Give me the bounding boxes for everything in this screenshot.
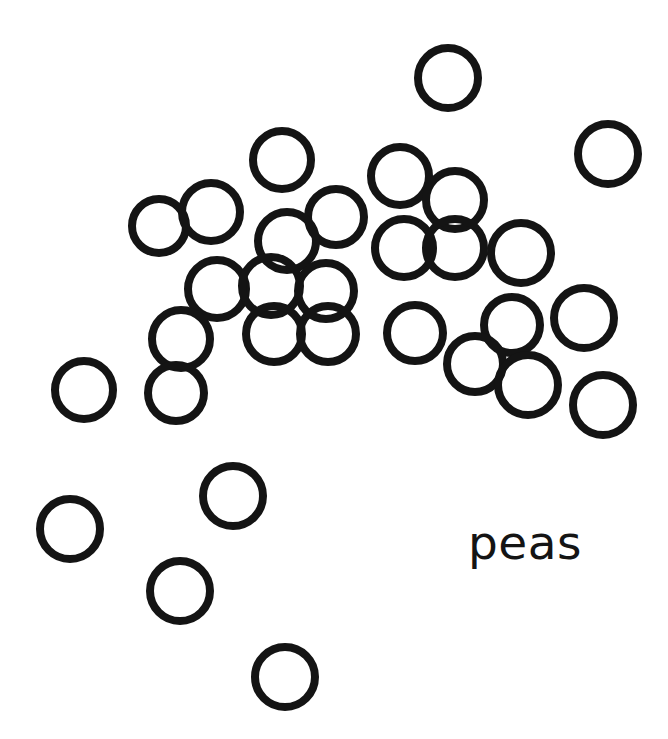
- pea-circle: [40, 499, 100, 559]
- pea-circle: [573, 375, 633, 435]
- pea-circle: [182, 183, 240, 241]
- peas-illustration: peas: [0, 0, 668, 739]
- pea-circle: [498, 355, 558, 415]
- pea-circle: [253, 131, 311, 189]
- pea-circle: [203, 466, 263, 526]
- pea-circle: [491, 223, 551, 283]
- pea-circle: [387, 305, 443, 361]
- pea-circle: [418, 48, 478, 108]
- pea-circle: [255, 647, 315, 707]
- pea-circle: [132, 199, 186, 253]
- pea-circle: [55, 361, 113, 419]
- pea-circle-group: [40, 48, 638, 707]
- pea-circle: [554, 288, 614, 348]
- pea-circle: [150, 561, 210, 621]
- peas-scatter-canvas: [0, 0, 668, 739]
- pea-circle: [371, 147, 429, 205]
- pea-circle: [148, 365, 204, 421]
- pea-circle: [152, 310, 210, 368]
- pea-circle: [578, 124, 638, 184]
- pea-circle: [188, 260, 246, 318]
- pea-circle: [300, 306, 356, 362]
